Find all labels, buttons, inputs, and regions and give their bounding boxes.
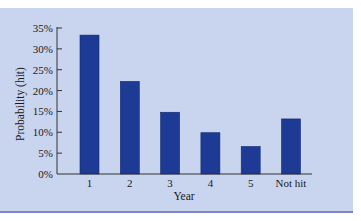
x-tick-label: 4 <box>208 177 214 189</box>
bar <box>161 112 180 174</box>
y-axis-title: Probability (hit) <box>14 67 27 141</box>
x-axis-labels: 12345Not hit <box>87 177 307 189</box>
bar-chart: 0%5%10%15%20%25%30%35% 12345Not hit Year… <box>0 0 361 221</box>
y-tick-label: 5% <box>38 147 53 159</box>
x-tick-label: 3 <box>167 177 173 189</box>
y-tick-label: 35% <box>33 22 53 34</box>
y-axis-ticks: 0%5%10%15%20%25%30%35% <box>33 22 62 180</box>
bar <box>201 133 220 174</box>
y-tick-label: 30% <box>33 43 53 55</box>
bars <box>80 35 301 174</box>
x-tick-label: 1 <box>87 177 93 189</box>
bar <box>80 35 99 174</box>
x-axis-title: Year <box>173 190 194 202</box>
bar <box>120 81 139 174</box>
x-tick-label: 2 <box>127 177 133 189</box>
x-tick-label: Not hit <box>276 177 307 189</box>
y-tick-label: 0% <box>38 168 53 180</box>
x-tick-label: 5 <box>248 177 254 189</box>
bar <box>241 146 260 174</box>
y-tick-label: 15% <box>33 105 53 117</box>
y-tick-label: 10% <box>33 126 53 138</box>
y-tick-label: 20% <box>33 85 53 97</box>
bar <box>282 119 301 174</box>
y-tick-label: 25% <box>33 64 53 76</box>
